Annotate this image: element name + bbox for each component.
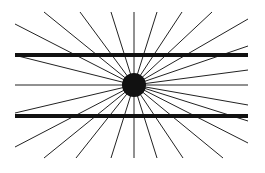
hering-illusion-figure <box>0 0 265 173</box>
center-dot <box>122 73 146 97</box>
ray-line <box>134 85 248 105</box>
ray-line <box>134 85 183 158</box>
ray-line <box>134 85 223 158</box>
ray-line <box>76 85 134 158</box>
ray-line <box>134 70 248 85</box>
ray-line <box>80 12 134 85</box>
ray-line <box>134 12 182 85</box>
